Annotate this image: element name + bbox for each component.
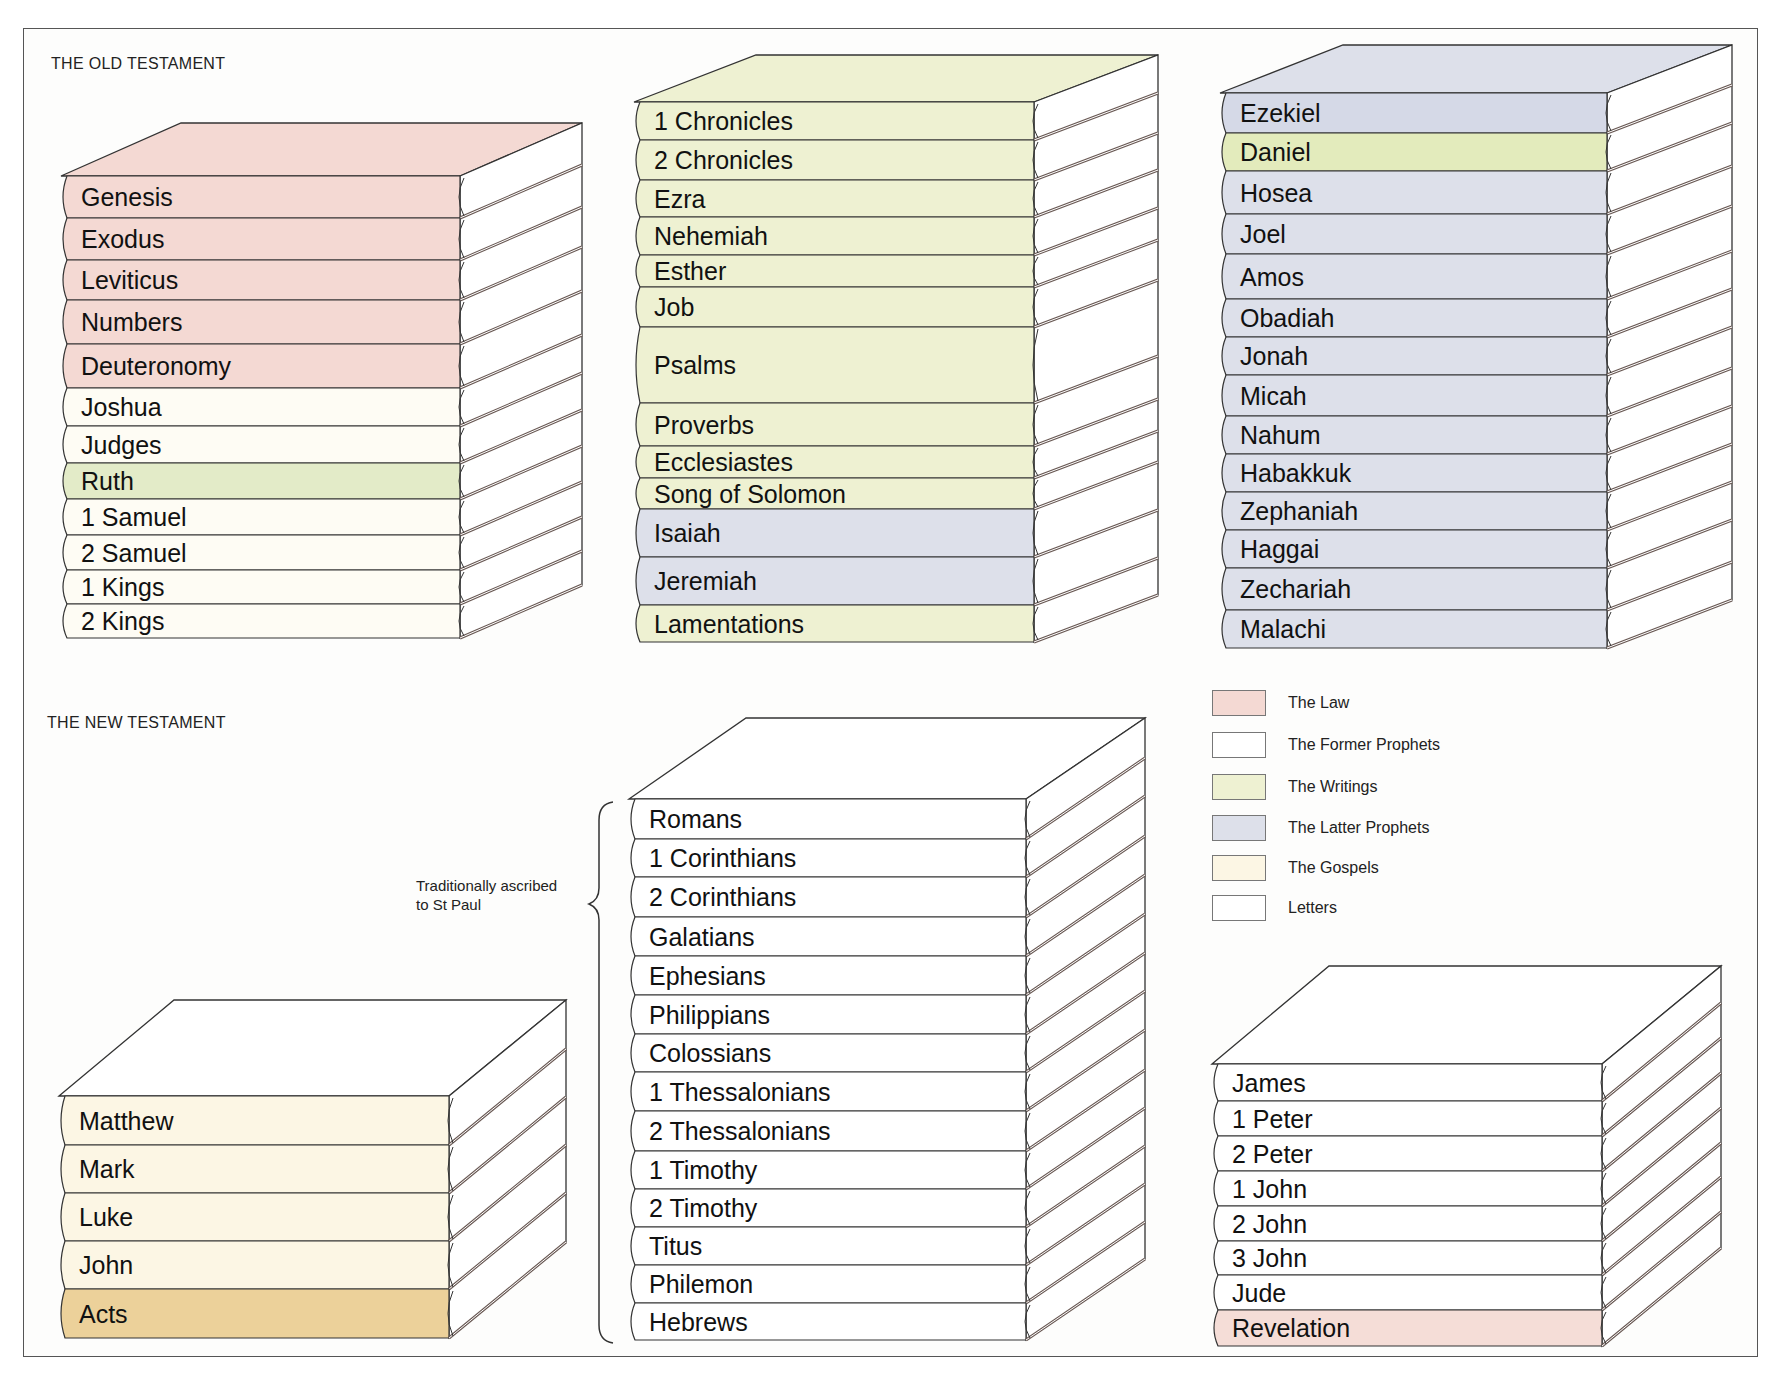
ot-stack-1: GenesisExodusLeviticusNumbersDeuteronomy… [59, 123, 592, 644]
book-label: Proverbs [654, 413, 754, 438]
nt-stack-2: Romans1 Corinthians2 CorinthiansGalatian… [627, 718, 1155, 1346]
legend-item-latter-prophets: The Latter Prophets [1212, 815, 1512, 843]
book-label: Leviticus [81, 268, 178, 293]
book-label: Matthew [79, 1109, 173, 1134]
book-label: 1 Timothy [649, 1158, 757, 1183]
legend-swatch-letters [1212, 895, 1266, 921]
legend-item-former-prophets: The Former Prophets [1212, 732, 1512, 760]
book-label: 2 Thessalonians [649, 1119, 831, 1144]
book-label: Acts [79, 1302, 128, 1327]
book-label: 2 Corinthians [649, 885, 796, 910]
book-label: Revelation [1232, 1316, 1350, 1341]
book-label: 3 John [1232, 1246, 1307, 1271]
book-label: James [1232, 1071, 1306, 1096]
legend-item-writings: The Writings [1212, 774, 1512, 802]
book-label: Exodus [81, 227, 164, 252]
book-label: 2 Timothy [649, 1196, 757, 1221]
brace-icon [585, 800, 625, 1345]
book-label: Mark [79, 1157, 135, 1182]
book-label: Numbers [81, 310, 182, 335]
legend-label-gospels: The Gospels [1288, 859, 1379, 877]
book-label: Jonah [1240, 344, 1308, 369]
book-label: Genesis [81, 185, 173, 210]
book-label: Daniel [1240, 140, 1311, 165]
book-label: Song of Solomon [654, 482, 846, 507]
book-label: Ephesians [649, 964, 766, 989]
book-label: Esther [654, 259, 726, 284]
book-label: Luke [79, 1205, 133, 1230]
old-testament-title: THE OLD TESTAMENT [51, 55, 225, 73]
book-label: Philippians [649, 1003, 770, 1028]
book-label: 1 John [1232, 1177, 1307, 1202]
book-label: Ecclesiastes [654, 450, 793, 475]
legend-swatch-writings [1212, 774, 1266, 800]
book-label: Titus [649, 1234, 702, 1259]
book-label: Ezra [654, 187, 705, 212]
book-label: 2 Chronicles [654, 148, 793, 173]
book-label: John [79, 1253, 133, 1278]
book-label: Psalms [654, 353, 736, 378]
book-label: 2 Peter [1232, 1142, 1313, 1167]
nt-stack-1: MatthewMarkLukeJohnActs [57, 1000, 576, 1344]
annotation-line-2: to St Paul [416, 895, 557, 914]
book-label: Colossians [649, 1041, 771, 1066]
legend-item-law: The Law [1212, 690, 1512, 718]
book-label: 1 Chronicles [654, 109, 793, 134]
new-testament-title: THE NEW TESTAMENT [47, 714, 226, 732]
book-label: Judges [81, 433, 162, 458]
annotation-line-1: Traditionally ascribed [416, 876, 557, 895]
nt-stack-3: James1 Peter2 Peter1 John2 John3 JohnJud… [1210, 966, 1731, 1352]
ot-stack-2: 1 Chronicles2 ChroniclesEzraNehemiahEsth… [632, 55, 1168, 648]
book-label: 2 John [1232, 1212, 1307, 1237]
legend-swatch-gospels [1212, 855, 1266, 881]
book-label: 1 Samuel [81, 505, 187, 530]
book-label: Galatians [649, 925, 755, 950]
book-label: Habakkuk [1240, 461, 1351, 486]
book-label: Hebrews [649, 1310, 748, 1335]
book-label: Micah [1240, 384, 1307, 409]
book-label: Lamentations [654, 612, 804, 637]
book-label: Job [654, 295, 694, 320]
book-label: Zechariah [1240, 577, 1351, 602]
pauline-annotation: Traditionally ascribed to St Paul [416, 876, 557, 914]
ot-stack-3: EzekielDanielHoseaJoelAmosObadiahJonahMi… [1218, 45, 1742, 654]
book-label: Nahum [1240, 423, 1321, 448]
legend-label-letters: Letters [1288, 899, 1337, 917]
book-label: Joshua [81, 395, 162, 420]
legend-item-gospels: The Gospels [1212, 855, 1512, 883]
book-label: Ezekiel [1240, 101, 1321, 126]
book-label: Hosea [1240, 181, 1312, 206]
legend-label-former-prophets: The Former Prophets [1288, 736, 1440, 754]
book-label: 2 Kings [81, 609, 164, 634]
book-label: Ruth [81, 469, 134, 494]
book-label: Zephaniah [1240, 499, 1358, 524]
book-label: 2 Samuel [81, 541, 187, 566]
legend-swatch-law [1212, 690, 1266, 716]
book-label: Malachi [1240, 617, 1326, 642]
legend-swatch-former-prophets [1212, 732, 1266, 758]
book-label: Deuteronomy [81, 354, 231, 379]
book-label: Romans [649, 807, 742, 832]
book-label: 1 Corinthians [649, 846, 796, 871]
book-label: 1 Kings [81, 575, 164, 600]
book-label: Philemon [649, 1272, 753, 1297]
legend-label-latter-prophets: The Latter Prophets [1288, 819, 1429, 837]
book-label: Jeremiah [654, 569, 757, 594]
legend-swatch-latter-prophets [1212, 815, 1266, 841]
book-label: Joel [1240, 222, 1286, 247]
book-label: Jude [1232, 1281, 1286, 1306]
book-label: Obadiah [1240, 306, 1335, 331]
book-label: Isaiah [654, 521, 721, 546]
book-label: 1 Peter [1232, 1107, 1313, 1132]
book-label: 1 Thessalonians [649, 1080, 831, 1105]
book-label: Nehemiah [654, 224, 768, 249]
book-label: Haggai [1240, 537, 1319, 562]
legend-label-writings: The Writings [1288, 778, 1378, 796]
book-label: Amos [1240, 265, 1304, 290]
legend-label-law: The Law [1288, 694, 1349, 712]
legend-item-letters: Letters [1212, 895, 1512, 923]
